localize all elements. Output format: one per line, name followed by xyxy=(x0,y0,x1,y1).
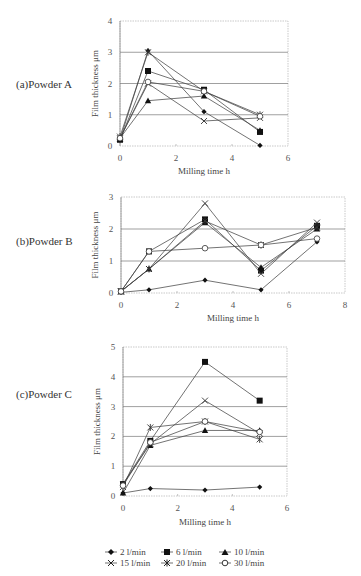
y-tick-label: 1 xyxy=(109,256,114,266)
y-axis-title: Film thickness μm xyxy=(90,212,100,279)
legend-label: 10 l/min xyxy=(234,547,264,557)
y-tick-label: 1 xyxy=(111,461,116,471)
legend-label: 2 l/min xyxy=(120,547,146,557)
legend-row-2: 15 l/min 20 l/min 30 l/min xyxy=(105,557,325,568)
y-tick-label: 0 xyxy=(109,288,114,298)
legend-item-2lmin: 2 l/min xyxy=(105,547,161,557)
x-tick-label: 6 xyxy=(286,153,291,163)
legend-item-20lmin: 20 l/min xyxy=(161,558,219,568)
x-tick-label: 0 xyxy=(119,300,124,310)
x-tick-label: 6 xyxy=(287,300,292,310)
legend-label: 20 l/min xyxy=(176,558,206,568)
charts-canvas: 012340246Milling time hFilm thickness μm… xyxy=(0,0,361,576)
diamond-marker-icon xyxy=(105,548,117,556)
y-tick-label: 0 xyxy=(108,141,113,151)
y-tick-label: 3 xyxy=(109,192,114,202)
series-15lmin xyxy=(117,81,263,142)
x-tick-label: 8 xyxy=(343,300,348,310)
x-axis-title: Milling time h xyxy=(178,166,231,176)
series-15lmin xyxy=(120,398,263,487)
x-tick-label: 2 xyxy=(175,503,180,513)
x-marker-icon xyxy=(105,559,117,567)
legend-item-15lmin: 15 l/min xyxy=(105,558,161,568)
x-tick-label: 4 xyxy=(230,153,235,163)
chart-panel-b: 012302468Milling time hFilm thickness μm xyxy=(90,192,348,323)
square-marker-icon xyxy=(161,548,173,556)
series-20lmin xyxy=(120,418,263,491)
y-axis-title: Film thickness μm xyxy=(90,50,100,117)
x-tick-label: 0 xyxy=(118,153,123,163)
legend-item-6lmin: 6 l/min xyxy=(161,547,219,557)
x-tick-label: 2 xyxy=(175,300,180,310)
legend-label: 30 l/min xyxy=(234,558,264,568)
series-2lmin xyxy=(117,48,262,148)
series-10lmin xyxy=(120,427,263,495)
legend-item-10lmin: 10 l/min xyxy=(219,547,277,557)
series-30lmin xyxy=(117,79,263,141)
x-tick-label: 2 xyxy=(174,153,179,163)
asterisk-marker-icon xyxy=(161,559,173,567)
y-tick-label: 0 xyxy=(111,491,116,501)
legend-item-30lmin: 30 l/min xyxy=(219,558,277,568)
y-tick-label: 4 xyxy=(108,16,113,26)
y-tick-label: 4 xyxy=(111,372,116,382)
x-tick-label: 6 xyxy=(285,503,290,513)
y-tick-label: 3 xyxy=(108,47,113,57)
series-20lmin xyxy=(117,49,263,140)
y-tick-label: 5 xyxy=(111,342,116,352)
legend-label: 15 l/min xyxy=(120,558,150,568)
series-30lmin xyxy=(120,419,262,489)
legend: 2 l/min 6 l/min 10 l/min 15 l/min 20 l/m… xyxy=(105,546,325,568)
x-tick-label: 4 xyxy=(231,300,236,310)
chart-panel-c: 0123450246Milling time hFilm thickness μ… xyxy=(92,342,290,527)
x-tick-label: 0 xyxy=(121,503,126,513)
triangle-marker-icon xyxy=(219,548,231,556)
y-tick-label: 2 xyxy=(108,79,113,89)
x-axis-title: Milling time h xyxy=(207,313,260,323)
y-tick-label: 1 xyxy=(108,110,113,120)
legend-label: 6 l/min xyxy=(176,547,202,557)
chart-panel-a: 012340246Milling time hFilm thickness μm xyxy=(90,16,291,176)
legend-row-1: 2 l/min 6 l/min 10 l/min xyxy=(105,546,325,557)
series-2lmin xyxy=(120,484,262,495)
y-tick-label: 2 xyxy=(109,224,114,234)
y-tick-label: 2 xyxy=(111,431,116,441)
circle-marker-icon xyxy=(219,559,231,567)
y-tick-label: 3 xyxy=(111,402,116,412)
x-axis-title: Milling time h xyxy=(179,517,232,527)
y-axis-title: Film thickness μm xyxy=(92,388,102,455)
x-tick-label: 4 xyxy=(230,503,235,513)
